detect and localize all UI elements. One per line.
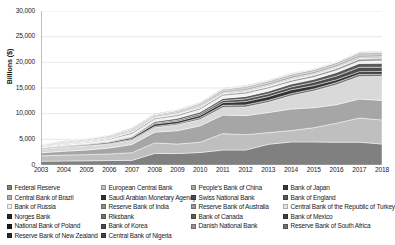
legend-label: Bank of Russia: [15, 202, 56, 212]
legend-item[interactable]: People's Bank of China: [191, 183, 283, 193]
legend-swatch-icon: [101, 224, 106, 229]
legend-label: Federal Reserve: [15, 183, 60, 193]
legend-item[interactable]: Central Bank of Brazil: [7, 193, 101, 203]
x-tick-label: 2011: [216, 167, 230, 174]
legend-label: Bank of Korea: [109, 221, 148, 231]
legend-item[interactable]: Bank of Mexico: [283, 212, 383, 222]
legend-label: Bank of Canada: [199, 212, 243, 222]
legend-label: National Bank of Poland: [15, 221, 81, 231]
x-tick-label: 2016: [329, 167, 343, 174]
legend-item[interactable]: Reserve Bank of New Zealand: [7, 231, 101, 241]
legend-item[interactable]: Bank of England: [283, 193, 383, 203]
legend-swatch-icon: [7, 195, 12, 200]
legend-item[interactable]: Bank of Canada: [191, 212, 283, 222]
legend-label: Saudi Arabian Monetary Agency: [109, 193, 196, 203]
legend-item[interactable]: Swiss National Bank: [191, 193, 283, 203]
legend-label: Swiss National Bank: [199, 193, 255, 203]
legend-swatch-icon: [101, 185, 106, 190]
legend-label: Norges Bank: [15, 212, 51, 222]
legend-item[interactable]: Riksbank: [101, 212, 191, 222]
legend-label: Bank of Mexico: [291, 212, 333, 222]
legend-item[interactable]: Central Bank of Nigeria: [101, 231, 191, 241]
legend-item[interactable]: National Bank of Poland: [7, 221, 101, 231]
y-tick-label: 10,000: [16, 110, 35, 117]
y-tick-label: 15,000: [16, 85, 35, 92]
x-tick-label: 2006: [102, 167, 116, 174]
legend-item[interactable]: Reserve Bank of India: [101, 202, 191, 212]
x-tick-label: 2003: [34, 167, 48, 174]
chart-legend: Federal ReserveCentral Bank of BrazilBan…: [7, 183, 383, 241]
x-tick-label: 2013: [261, 167, 275, 174]
legend-label: Central Bank of Nigeria: [109, 231, 172, 241]
legend-label: Reserve Bank of Australia: [199, 202, 269, 212]
legend-label: Bank of England: [291, 193, 336, 203]
y-tick-label: 5,000: [19, 136, 35, 143]
legend-swatch-icon: [7, 185, 12, 190]
legend-item[interactable]: Bank of Russia: [7, 202, 101, 212]
legend-item[interactable]: European Central Bank: [101, 183, 191, 193]
legend-swatch-icon: [101, 214, 106, 219]
legend-column: Bank of JapanBank of EnglandCentral Bank…: [283, 183, 383, 231]
x-tick-label: 2014: [284, 167, 298, 174]
legend-column: European Central BankSaudi Arabian Monet…: [101, 183, 191, 241]
x-tick-label: 2018: [375, 167, 389, 174]
legend-swatch-icon: [283, 195, 288, 200]
x-axis-tick-labels: 2003200420052006200720082009201020112012…: [41, 167, 382, 179]
y-axis-tick-labels: 05,00010,00015,00020,00025,00030,000: [0, 0, 38, 178]
legend-item[interactable]: Bank of Japan: [283, 183, 383, 193]
x-tick-label: 2005: [79, 167, 93, 174]
legend-item[interactable]: Reserve Bank of Australia: [191, 202, 283, 212]
x-tick-label: 2008: [148, 167, 162, 174]
legend-swatch-icon: [7, 204, 12, 209]
legend-swatch-icon: [7, 214, 12, 219]
legend-label: Reserve Bank of South Africa: [291, 221, 371, 231]
legend-label: Bank of Japan: [291, 183, 330, 193]
legend-item[interactable]: Bank of Korea: [101, 221, 191, 231]
legend-swatch-icon: [101, 233, 106, 238]
legend-item[interactable]: Federal Reserve: [7, 183, 101, 193]
legend-swatch-icon: [191, 214, 196, 219]
stacked-area-svg: [41, 11, 382, 165]
legend-column: Federal ReserveCentral Bank of BrazilBan…: [7, 183, 101, 241]
legend-label: Central Bank of Brazil: [15, 193, 74, 203]
legend-item[interactable]: Central Bank of the Republic of Turkey: [283, 202, 383, 212]
legend-item[interactable]: Reserve Bank of South Africa: [283, 221, 383, 231]
legend-label: Riksbank: [109, 212, 134, 222]
legend-swatch-icon: [191, 204, 196, 209]
legend-label: Reserve Bank of New Zealand: [15, 231, 98, 241]
legend-swatch-icon: [7, 224, 12, 229]
legend-item[interactable]: Norges Bank: [7, 212, 101, 222]
legend-item[interactable]: Saudi Arabian Monetary Agency: [101, 193, 191, 203]
y-tick-label: 25,000: [16, 33, 35, 40]
x-tick-label: 2012: [239, 167, 253, 174]
legend-swatch-icon: [283, 224, 288, 229]
x-tick-label: 2007: [125, 167, 139, 174]
legend-item[interactable]: Danish National Bank: [191, 221, 283, 231]
legend-label: Danish National Bank: [199, 221, 258, 231]
legend-column: People's Bank of ChinaSwiss National Ban…: [191, 183, 283, 231]
legend-label: People's Bank of China: [199, 183, 262, 193]
legend-swatch-icon: [283, 185, 288, 190]
legend-swatch-icon: [191, 185, 196, 190]
legend-swatch-icon: [191, 224, 196, 229]
legend-swatch-icon: [283, 214, 288, 219]
legend-swatch-icon: [101, 195, 106, 200]
x-tick-label: 2004: [57, 167, 71, 174]
plot-area: [41, 11, 382, 165]
legend-label: Reserve Bank of India: [109, 202, 169, 212]
x-tick-label: 2017: [352, 167, 366, 174]
y-tick-label: 20,000: [16, 59, 35, 66]
stacked-area-chart: Billions ($) 05,00010,00015,00020,00025,…: [0, 0, 386, 178]
legend-label: European Central Bank: [109, 183, 173, 193]
y-tick-label: 30,000: [16, 8, 35, 15]
legend-swatch-icon: [101, 204, 106, 209]
x-tick-label: 2015: [307, 167, 321, 174]
x-tick-label: 2009: [170, 167, 184, 174]
legend-swatch-icon: [7, 233, 12, 238]
legend-swatch-icon: [191, 195, 196, 200]
legend-swatch-icon: [283, 204, 288, 209]
x-tick-label: 2010: [193, 167, 207, 174]
legend-label: Central Bank of the Republic of Turkey: [291, 202, 395, 212]
